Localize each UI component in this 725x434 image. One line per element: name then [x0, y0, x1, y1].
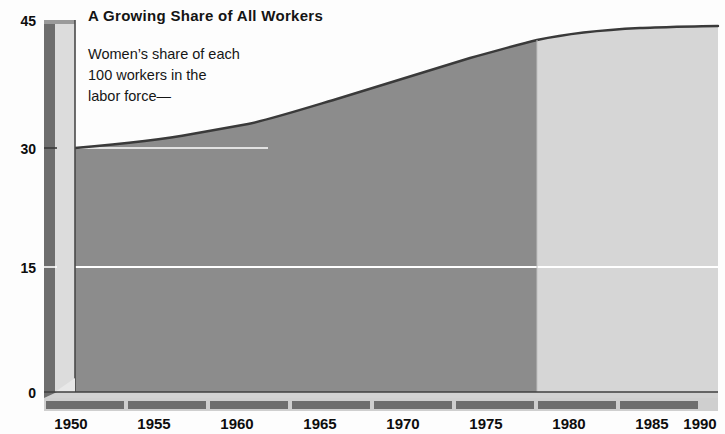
x-tick-label-1960: 1960 [220, 415, 253, 432]
x-axis-plinth [44, 392, 718, 411]
x-tick-label-1970: 1970 [386, 415, 419, 432]
x-tick-block [128, 401, 206, 409]
y-axis-top-cap [44, 20, 75, 24]
x-tick-label-1955: 1955 [137, 415, 170, 432]
x-tick-block [456, 401, 534, 409]
chart-subtitle-line-2: 100 workers in the [88, 67, 206, 83]
y-tick-label-30: 30 [20, 141, 36, 157]
x-tick-block [46, 401, 124, 409]
chart-title: A Growing Share of All Workers [88, 7, 323, 24]
y-axis-face-dark [44, 20, 55, 398]
x-tick-label-1975: 1975 [469, 415, 502, 432]
x-tick-block [210, 401, 288, 409]
area-segment-projected [537, 0, 725, 434]
x-tick-label-1965: 1965 [303, 415, 336, 432]
x-tick-label-1950: 1950 [54, 415, 87, 432]
x-tick-block [620, 401, 698, 409]
area-chart-figure: 45 30 15 0 1950 1955 1960 1965 1970 1975… [0, 0, 725, 434]
plinth-top-face [44, 392, 718, 398]
y-tick-label-45: 45 [20, 13, 36, 29]
x-tick-label-1985: 1985 [635, 415, 668, 432]
x-tick-block [374, 401, 452, 409]
y-axis-face-light [55, 20, 75, 398]
y-tick-label-15: 15 [20, 260, 36, 276]
y-tick-label-0: 0 [28, 385, 36, 401]
chart-subtitle-line-1: Women’s share of each [88, 46, 240, 62]
x-tick-label-1980: 1980 [552, 415, 585, 432]
y-axis-column [44, 20, 75, 398]
chart-container: 45 30 15 0 1950 1955 1960 1965 1970 1975… [0, 0, 725, 434]
chart-subtitle-line-3: labor force— [88, 88, 172, 104]
x-tick-block [292, 401, 370, 409]
x-tick-label-1990: 1990 [683, 415, 716, 432]
x-tick-block [538, 401, 616, 409]
